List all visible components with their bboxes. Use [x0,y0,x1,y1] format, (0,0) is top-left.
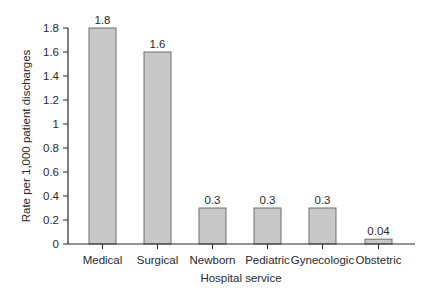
bar-chart: 1.81.60.30.30.30.04 00.20.40.60.811.21.4… [0,0,434,295]
x-axis-title: Hospital service [200,272,281,284]
value-label: 0.04 [367,225,390,237]
value-label: 1.6 [150,38,166,50]
y-tick-label: 0.2 [43,214,59,226]
value-label: 0.3 [205,194,221,206]
bar-gynecologic [309,208,336,244]
y-tick-label: 1.4 [43,70,60,82]
y-axis-title: Rate per 1,000 patient discharges [20,49,32,222]
x-tick-label: Newborn [189,254,235,266]
bars [89,28,392,244]
y-tick-label: 0.6 [43,166,59,178]
y-tick-label: 1.2 [43,94,59,106]
x-tick-label: Surgical [137,254,179,266]
bar-pediatric [254,208,281,244]
y-tick-label: 1.6 [43,46,59,58]
x-axis: MedicalSurgicalNewbornPediatricGynecolog… [68,244,415,266]
x-tick-label: Obstetric [355,254,401,266]
y-tick-label: 0.8 [43,142,59,154]
x-tick-label: Medical [83,254,123,266]
bar-newborn [199,208,226,244]
value-label: 0.3 [260,194,276,206]
y-tick-label: 0.4 [43,190,60,202]
value-label: 1.8 [95,14,111,26]
bar-surgical [144,52,171,244]
y-tick-label: 0 [53,238,59,250]
y-tick-label: 1.8 [43,22,59,34]
value-label: 0.3 [315,194,331,206]
bar-obstetric [365,239,392,244]
y-axis: 00.20.40.60.811.21.41.61.8 [43,22,68,250]
bar-medical [89,28,116,244]
x-tick-label: Gynecologic [291,254,355,266]
value-labels: 1.81.60.30.30.30.04 [95,14,391,237]
y-tick-label: 1 [53,118,59,130]
x-tick-label: Pediatric [245,254,290,266]
